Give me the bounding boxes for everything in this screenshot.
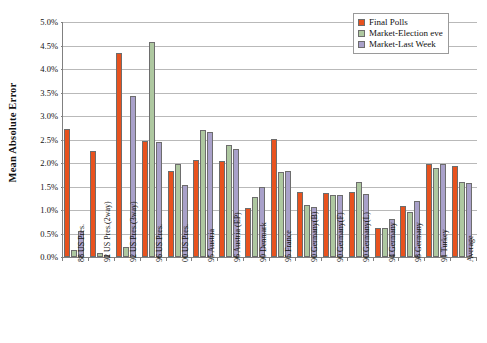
y-axis-tick-label: 0.0% <box>24 253 58 262</box>
x-axis-tick-mark <box>373 257 374 261</box>
x-axis-tick-label-text: 90 Germany(B) <box>311 212 319 262</box>
x-axis-tick-label-text: 96 US Pres. <box>156 224 164 262</box>
bar <box>375 228 381 257</box>
bar <box>116 53 122 257</box>
legend-item[interactable]: Market-Election eve <box>358 28 443 39</box>
x-axis-tick-mark <box>243 257 244 261</box>
bar <box>323 193 329 257</box>
x-axis-tick-mark <box>191 257 192 261</box>
y-axis-title-label: Mean Absolute Error <box>8 83 19 183</box>
bar <box>245 208 251 257</box>
y-axis-tick-label: 2.0% <box>24 159 58 168</box>
bar <box>433 168 439 257</box>
x-axis-tick-mark <box>295 257 296 261</box>
x-axis-tick-mark <box>114 257 115 261</box>
bar <box>452 166 458 257</box>
bar <box>407 212 413 257</box>
x-axis-tick-label-text: 00 US Pres. <box>182 224 190 262</box>
bar <box>168 171 174 257</box>
x-axis-tick-mark <box>424 257 425 261</box>
legend-item[interactable]: Market-Last Week <box>358 39 443 50</box>
x-axis-tick-mark <box>62 257 63 261</box>
legend-item-label: Market-Election eve <box>369 29 443 38</box>
y-axis-tick-label: 2.5% <box>24 135 58 144</box>
bar <box>330 195 336 257</box>
x-axis-tick-label-text: 94 Germany <box>389 222 397 262</box>
bar <box>193 160 199 257</box>
x-axis-tick-label-text: 91 Turkey <box>441 229 449 262</box>
legend-swatch-icon <box>358 30 365 37</box>
x-axis-tick-label-text: 95 France <box>285 230 293 262</box>
x-axis-tick-mark <box>398 257 399 261</box>
bar <box>90 151 96 257</box>
x-axis-tick-mark <box>321 257 322 261</box>
bar <box>142 141 148 257</box>
bar <box>175 164 181 257</box>
bar <box>400 206 406 257</box>
x-axis-tick-mark <box>88 257 89 261</box>
bar <box>252 197 258 257</box>
legend-item-label: Market-Last Week <box>369 40 436 49</box>
y-axis-tick-label: 1.5% <box>24 182 58 191</box>
bar <box>426 164 432 257</box>
bar <box>356 182 362 257</box>
x-axis-tick-labels: 88 US Pres.92 US Pres.(2way)92 US Pres.(… <box>62 262 476 342</box>
bar-group <box>451 22 477 257</box>
y-axis-tick-label: 3.0% <box>24 112 58 121</box>
bar <box>200 130 206 257</box>
y-axis-tick-label: 1.0% <box>24 206 58 215</box>
x-axis-tick-label-text: 90 Germany(L) <box>363 212 371 262</box>
x-axis-tick-label-text: 96 Austria (EP) <box>234 212 242 262</box>
bar <box>304 205 310 257</box>
x-axis-tick-mark <box>217 257 218 261</box>
bar-group <box>192 22 218 257</box>
legend: Final PollsMarket-Election eveMarket-Las… <box>353 13 449 54</box>
bar <box>459 182 465 257</box>
bar <box>149 42 155 257</box>
y-axis-tick-label: 4.5% <box>24 41 58 50</box>
x-axis-tick-mark <box>166 257 167 261</box>
bar <box>382 228 388 257</box>
bar <box>349 192 355 257</box>
x-axis-tick-label-text: 98 Germany <box>415 222 423 262</box>
bar-group <box>167 22 193 257</box>
y-axis-tick-label: 5.0% <box>24 18 58 27</box>
bar <box>226 145 232 257</box>
bar-group <box>425 22 451 257</box>
x-axis-tick-mark <box>140 257 141 261</box>
x-axis-tick-label-text: 92 US Pres.(3way) <box>130 201 138 262</box>
y-axis-tick-label: 0.5% <box>24 229 58 238</box>
bar-group <box>63 22 89 257</box>
x-axis-tick-label-text: 95 Austria <box>208 229 216 262</box>
bar-chart: Mean Absolute Error 0.0%0.5%1.0%1.5%2.0%… <box>0 0 487 343</box>
legend-item[interactable]: Final Polls <box>358 17 443 28</box>
bar <box>64 129 70 257</box>
bar <box>271 139 277 257</box>
bar-group <box>270 22 296 257</box>
bar <box>297 192 303 257</box>
y-axis-tick-labels: 0.0%0.5%1.0%1.5%2.0%2.5%3.0%3.5%4.0%4.5%… <box>20 22 58 257</box>
x-axis-tick-label-text: Average <box>467 236 475 263</box>
x-axis-tick-label-text: 90 Denmark <box>260 222 268 262</box>
x-axis-tick-label-text: 88 US Pres. <box>78 224 86 262</box>
legend-swatch-icon <box>358 41 365 48</box>
bar <box>219 161 225 257</box>
bar-group <box>141 22 167 257</box>
x-axis-tick-mark <box>347 257 348 261</box>
y-axis-tick-label: 4.0% <box>24 65 58 74</box>
x-axis-tick-mark <box>269 257 270 261</box>
legend-swatch-icon <box>358 19 365 26</box>
x-axis-tick-label-text: 92 US Pres.(2way) <box>104 201 112 262</box>
y-axis-tick-label: 3.5% <box>24 88 58 97</box>
x-axis-tick-mark <box>476 257 477 261</box>
x-axis-tick-label-text: 90 Germany(F) <box>337 212 345 262</box>
x-axis-tick-mark <box>450 257 451 261</box>
bar <box>123 247 129 257</box>
legend-item-label: Final Polls <box>369 18 408 27</box>
